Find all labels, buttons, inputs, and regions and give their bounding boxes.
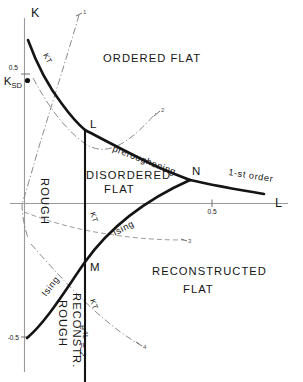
region-label-reconstructed-flat-line1: RECONSTRUCTED bbox=[152, 265, 267, 277]
flow-marker-label-4: 4 bbox=[143, 344, 147, 350]
kt-boundary-curve bbox=[28, 40, 85, 130]
phase-diagram-svg: K L 0.5 -0.5 0.5 KSD L N M ORDERED FLAT … bbox=[0, 0, 303, 382]
curve-label-first-order: 1-st order bbox=[228, 167, 274, 184]
curve-label-kt-middle: KT bbox=[88, 211, 100, 224]
l-axis-label: L bbox=[275, 196, 282, 210]
flow-marker-label-3: 3 bbox=[188, 238, 192, 244]
region-label-reconstr-rough-line2: ROUGH bbox=[57, 300, 69, 347]
flow-marker-4-tick bbox=[136, 342, 142, 346]
point-label-n: N bbox=[192, 165, 200, 177]
k-tick-label-neg0.5: -0.5 bbox=[8, 334, 20, 341]
ksd-point-label: KSD bbox=[4, 75, 23, 90]
curve-label-e4l: e4L = 2 bbox=[78, 325, 89, 357]
curve-label-ising-lower: Ising bbox=[40, 274, 62, 298]
region-labels-group: ORDERED FLAT DISORDERED FLAT RECONSTRUCT… bbox=[39, 52, 267, 368]
point-label-l: L bbox=[90, 118, 97, 130]
region-label-reconstructed-flat-line2: FLAT bbox=[183, 283, 214, 295]
phase-diagram-figure: K L 0.5 -0.5 0.5 KSD L N M ORDERED FLAT … bbox=[0, 0, 303, 382]
k-tick-label-0.5: 0.5 bbox=[9, 64, 18, 71]
region-label-disordered-flat-line2: FLAT bbox=[104, 183, 135, 195]
flow-marker-2-tick bbox=[154, 111, 160, 116]
region-label-ordered-flat: ORDERED FLAT bbox=[103, 52, 201, 64]
curve-label-ising-middle: Ising bbox=[111, 218, 135, 237]
k-axis-label: K bbox=[31, 6, 40, 20]
flow-marker-label-2: 2 bbox=[161, 107, 165, 113]
point-label-m: M bbox=[90, 261, 100, 273]
flow-marker-label-1: 1 bbox=[83, 9, 87, 15]
region-label-rough: ROUGH bbox=[39, 178, 51, 225]
curve-label-kt-upper: KT bbox=[41, 52, 54, 66]
curve-label-kt-lower: KT bbox=[88, 298, 100, 311]
l-tick-label-0.5: 0.5 bbox=[207, 208, 216, 215]
first-order-curve bbox=[190, 180, 264, 194]
ksd-point-marker bbox=[25, 78, 30, 83]
